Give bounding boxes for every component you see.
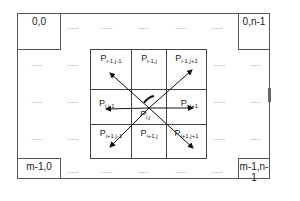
direction-arrows xyxy=(0,0,300,201)
arrow-down-right xyxy=(149,108,193,148)
arrow-up-right xyxy=(149,70,192,108)
arrow-down-left xyxy=(110,108,149,147)
arrow-up-left xyxy=(110,73,149,108)
arrow-left xyxy=(106,108,149,109)
arrow-up-stub xyxy=(144,96,154,103)
